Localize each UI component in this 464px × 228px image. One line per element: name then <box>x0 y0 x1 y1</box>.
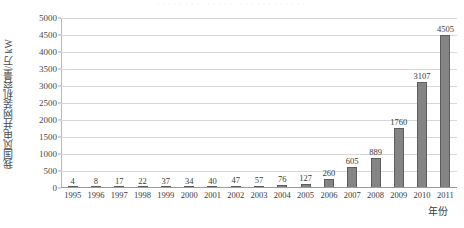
y-tick-label: 4000 <box>39 47 57 57</box>
bar-value-label: 4 <box>71 177 75 186</box>
y-tick-label: 0 <box>53 183 58 193</box>
bar-value-label: 34 <box>185 177 194 186</box>
plot-area: 0500100015002000250030003500400045005000… <box>61 18 457 188</box>
bar-series: 4817223734404757761272606058891760310745… <box>61 18 457 188</box>
x-tick-label: 2001 <box>201 190 224 200</box>
x-tick-label: 2009 <box>387 190 410 200</box>
x-tick-label: 2008 <box>364 190 387 200</box>
bar-value-label: 1760 <box>390 118 407 127</box>
bar-slot: 22 <box>131 18 154 188</box>
bar-value-label: 47 <box>231 176 240 185</box>
bar-value-label: 4505 <box>437 25 454 34</box>
bar-slot: 889 <box>364 18 387 188</box>
y-tick-label: 1500 <box>39 132 57 142</box>
top-edge-artifact: ········ ····· ············ <box>0 0 464 7</box>
bar-slot: 40 <box>201 18 224 188</box>
bar-value-label: 40 <box>208 177 217 186</box>
chart-page: ········ ····· ············ 我国风电并网装机容量/万… <box>0 0 464 228</box>
y-tick-label: 2000 <box>39 115 57 125</box>
x-tick-label: 2007 <box>341 190 364 200</box>
bar-value-label: 889 <box>369 148 382 157</box>
bar-slot: 4 <box>61 18 84 188</box>
bar[interactable] <box>440 35 450 188</box>
bar-slot: 260 <box>317 18 340 188</box>
bar-slot: 8 <box>84 18 107 188</box>
bar-slot: 76 <box>271 18 294 188</box>
bar-slot: 57 <box>247 18 270 188</box>
x-tick-label: 2011 <box>434 190 457 200</box>
bar-slot: 3107 <box>410 18 433 188</box>
x-tick-label: 1998 <box>131 190 154 200</box>
bar-slot: 605 <box>341 18 364 188</box>
bar[interactable] <box>371 158 381 188</box>
y-tick-label: 4500 <box>39 30 57 40</box>
bar-value-label: 127 <box>299 174 312 183</box>
bar-value-label: 260 <box>323 169 336 178</box>
y-tick-label: 3500 <box>39 64 57 74</box>
x-tick-label: 1997 <box>108 190 131 200</box>
y-tick-label: 3000 <box>39 81 57 91</box>
x-tick-label: 2002 <box>224 190 247 200</box>
bar-slot: 127 <box>294 18 317 188</box>
y-tick-label: 5000 <box>39 13 57 23</box>
bar-value-label: 3107 <box>414 72 431 81</box>
x-tick-label: 2000 <box>177 190 200 200</box>
bar-slot: 17 <box>108 18 131 188</box>
bar-slot: 34 <box>177 18 200 188</box>
bar-value-label: 57 <box>255 176 264 185</box>
y-tick-label: 500 <box>44 166 58 176</box>
x-tick-label: 2006 <box>317 190 340 200</box>
bar-value-label: 8 <box>94 177 98 186</box>
bar-slot: 1760 <box>387 18 410 188</box>
bar[interactable] <box>417 82 427 188</box>
y-axis-title: 我国风电并网装机容量/万 kW <box>0 16 16 192</box>
x-axis-line <box>61 187 457 188</box>
bar-value-label: 605 <box>346 157 359 166</box>
x-tick-label: 2003 <box>247 190 270 200</box>
bar-value-label: 76 <box>278 175 287 184</box>
bar[interactable] <box>394 128 404 188</box>
x-axis-tick-labels: 1995199619971998199920002001200220032004… <box>61 190 457 200</box>
bar-slot: 37 <box>154 18 177 188</box>
x-tick-label: 2004 <box>271 190 294 200</box>
x-axis-title: 年份 <box>0 203 448 218</box>
y-axis-title-text: 我国风电并网装机容量/万 kW <box>1 39 16 169</box>
x-tick-label: 1995 <box>61 190 84 200</box>
bar-slot: 4505 <box>434 18 457 188</box>
x-tick-label: 1996 <box>84 190 107 200</box>
bar[interactable] <box>347 167 357 188</box>
bar-value-label: 17 <box>115 177 124 186</box>
x-tick-label: 1999 <box>154 190 177 200</box>
x-tick-label: 2005 <box>294 190 317 200</box>
x-tick-label: 2010 <box>410 190 433 200</box>
bar-slot: 47 <box>224 18 247 188</box>
y-tick-label: 1000 <box>39 149 57 159</box>
bar-value-label: 22 <box>138 177 147 186</box>
bar-value-label: 37 <box>162 177 171 186</box>
y-tick-label: 2500 <box>39 98 57 108</box>
